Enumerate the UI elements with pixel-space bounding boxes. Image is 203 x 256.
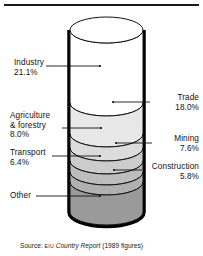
callout-trade: Trade 18.0% (175, 93, 199, 112)
callout-trade-label: Trade (175, 93, 199, 103)
callout-industry-value: 21.1% (14, 68, 44, 78)
callout-mining: Mining 7.6% (174, 134, 199, 153)
cylinder-chart: Industry 21.1% Trade 18.0% Agriculture &… (0, 0, 203, 256)
callout-agriculture-label2: & forestry (10, 121, 50, 131)
callout-agriculture: Agriculture & forestry 8.0% (10, 111, 50, 140)
callout-mining-value: 7.6% (174, 144, 199, 154)
callout-other: Other (10, 191, 31, 201)
callout-construction: Construction 5.8% (152, 162, 199, 181)
callout-agriculture-label: Agriculture (10, 111, 50, 121)
callout-industry: Industry 21.1% (14, 58, 44, 77)
callout-construction-value: 5.8% (152, 172, 199, 182)
callout-transport-value: 6.4% (10, 158, 46, 168)
callout-other-label: Other (10, 191, 31, 201)
source-prefix: Source: (20, 242, 43, 249)
callout-construction-label: Construction (152, 162, 199, 172)
callout-agriculture-value: 8.0% (10, 130, 50, 140)
source-suffix: (1989 figures) (102, 242, 143, 249)
callout-transport: Transport 6.4% (10, 148, 46, 167)
callout-trade-value: 18.0% (175, 103, 199, 113)
source-publisher: EIU (45, 243, 54, 249)
source-note: Source: EIU Country Report (1989 figures… (20, 242, 143, 250)
callout-industry-label: Industry (14, 58, 44, 68)
cylinder-top-face (70, 17, 143, 43)
source-title: Country Report (56, 242, 101, 249)
callout-mining-label: Mining (174, 134, 199, 144)
callout-transport-label: Transport (10, 148, 46, 158)
